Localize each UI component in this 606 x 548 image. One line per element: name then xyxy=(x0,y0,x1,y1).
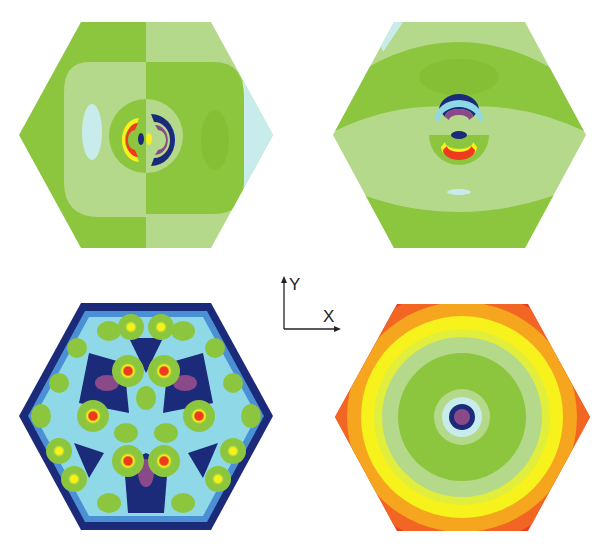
x-axis-label: X xyxy=(323,307,334,327)
panel-bottom-left-contour xyxy=(19,303,273,530)
panel-bottom-right-contour xyxy=(335,304,590,531)
axis-indicator: Y X xyxy=(278,275,343,335)
panel-top-right-contour xyxy=(333,22,586,248)
panel-top-left-contour xyxy=(19,22,273,248)
y-axis-label: Y xyxy=(289,275,300,295)
